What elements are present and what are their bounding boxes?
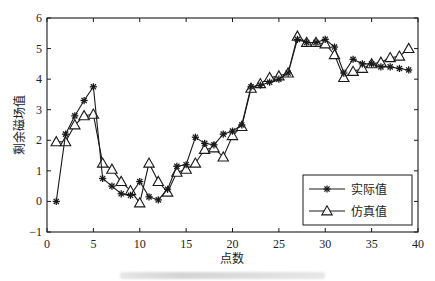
y-tick-label: 0 <box>36 194 42 208</box>
y-tick-label: −1 <box>29 225 42 239</box>
y-tick-label: 6 <box>36 11 42 25</box>
line-chart: 0510152025303540−10123456 实际值仿真值 点数 剩余磁场… <box>0 0 435 281</box>
y-tick-label: 1 <box>36 164 42 178</box>
x-tick-label: 10 <box>134 237 146 251</box>
legend-label: 实际值 <box>351 182 387 197</box>
x-tick-label: 40 <box>412 237 424 251</box>
y-tick-label: 3 <box>36 103 42 117</box>
x-tick-label: 20 <box>227 237 239 251</box>
y-tick-label: 4 <box>36 72 42 86</box>
x-axis-label: 点数 <box>220 251 244 266</box>
x-tick-label: 15 <box>180 237 192 251</box>
x-tick-label: 0 <box>44 237 50 251</box>
y-axis-label: 剩余磁场值 <box>12 95 27 155</box>
y-tick-label: 5 <box>36 42 42 56</box>
x-tick-label: 30 <box>319 237 331 251</box>
y-tick-label: 2 <box>36 133 42 147</box>
figure-caption-blurred <box>120 272 325 279</box>
legend-label: 仿真值 <box>351 204 387 219</box>
x-tick-label: 35 <box>366 237 378 251</box>
x-tick-label: 25 <box>273 237 285 251</box>
legend: 实际值仿真值 <box>303 175 412 225</box>
x-tick-label: 5 <box>90 237 96 251</box>
